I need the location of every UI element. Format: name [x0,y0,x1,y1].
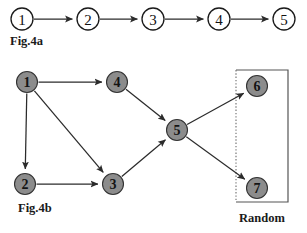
fig4b-node-label-1: 1 [24,75,31,90]
figure-caption-4a: Fig.4a [10,34,44,48]
fig4b-node-label-2: 2 [22,177,29,192]
fig4b-node-5[interactable]: 5 [167,120,188,141]
fig4a-node-label-1: 1 [18,12,26,28]
random-group-label: Random [239,211,285,225]
fig4a-node-label-4: 4 [215,12,223,28]
fig4a-node-4[interactable]: 4 [208,8,230,30]
fig4b-edge-1-to-3 [34,91,103,173]
fig4a-node-2[interactable]: 2 [77,8,99,30]
fig4b-node-label-6: 6 [254,79,261,94]
fig4b-node-7[interactable]: 7 [247,178,268,199]
panel-b-edge-group [25,82,244,184]
fig4a-node-label-3: 3 [149,12,157,28]
panel-b-node-group: 1234567 [15,72,268,199]
fig4b-edge-4-to-5 [126,89,165,120]
fig4b-edge-5-to-6 [187,93,244,124]
fig4b-edge-3-to-5 [122,140,166,177]
fig4b-node-4[interactable]: 4 [107,72,128,93]
fig4a-node-5[interactable]: 5 [273,8,295,30]
fig4b-node-label-4: 4 [114,75,121,90]
fig4b-node-1[interactable]: 1 [17,72,38,93]
fig4a-node-3[interactable]: 3 [142,8,164,30]
fig4b-node-label-5: 5 [174,123,181,138]
fig4b-node-3[interactable]: 3 [103,174,124,195]
fig4b-node-2[interactable]: 2 [15,174,36,195]
figure-caption-4b: Fig.4b [18,201,52,215]
fig4a-node-1[interactable]: 1 [11,8,33,30]
fig4a-node-label-5: 5 [280,12,288,28]
fig4a-node-label-2: 2 [84,12,92,28]
fig4b-node-6[interactable]: 6 [247,76,268,97]
fig4b-edge-1-to-2 [25,94,26,169]
diagram-svg: 12345 Fig.4a 1234567 Fig.4b Random [0,0,307,233]
fig4b-node-label-3: 3 [110,177,117,192]
figure-canvas: 12345 Fig.4a 1234567 Fig.4b Random [0,0,307,233]
fig4b-node-label-7: 7 [254,181,261,196]
